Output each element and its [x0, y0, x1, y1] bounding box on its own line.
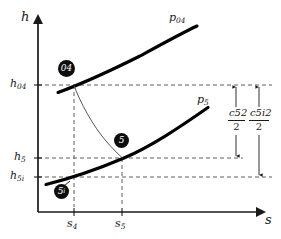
x-tick-label-s5: s5 [115, 218, 125, 230]
annotation-c5i-squared-over-2: c5i2 2 [249, 108, 269, 132]
curve-base-p5: p [197, 93, 204, 106]
state-badge-5-text: 5 [119, 136, 125, 145]
annotation-c5-numerator: c52 [228, 108, 245, 121]
y-tick-label-h04: h04 [10, 78, 27, 90]
y-axis-label: h [21, 10, 29, 23]
state-badge-04: 04 [58, 60, 75, 77]
curve-label-p5: p5 [197, 94, 209, 106]
enthalpy-entropy-diagram: h s h04 h5 h5i s4 s5 p04 p5 04 5 5i c52 … [0, 0, 281, 239]
x-tick-sub-s4: 4 [73, 222, 78, 231]
state-badge-5: 5 [114, 133, 129, 148]
annotation-c5-sup: 2 [241, 107, 247, 118]
axis-ticks [34, 85, 122, 216]
x-axis-label: s [265, 213, 272, 226]
curve-p04 [58, 26, 197, 93]
curve-base-p04: p [169, 11, 176, 24]
x-tick-sub-s5: 5 [121, 222, 126, 231]
state-badge-5i-sub: i [63, 188, 65, 194]
process-curve-04-to-5 [74, 86, 123, 159]
y-tick-label-h5: h5 [14, 151, 26, 163]
curve-sub-p04: 04 [176, 16, 186, 25]
y-tick-sub-h5i: 5i [17, 174, 24, 183]
annotation-c5-squared-over-2: c52 2 [228, 108, 245, 132]
annotation-c5i-sup: 2 [265, 107, 271, 118]
x-tick-label-s4: s4 [67, 218, 77, 230]
y-tick-sub-h04: 04 [17, 82, 27, 91]
state-badge-04-text: 04 [61, 64, 72, 73]
annotation-c5i-numerator: c5i2 [249, 108, 269, 121]
curve-label-p04: p04 [169, 12, 186, 24]
annotation-c5i-denominator: 2 [249, 121, 269, 133]
y-tick-label-h5i: h5i [10, 170, 24, 182]
reference-lines [38, 85, 272, 207]
annotation-c5-denominator: 2 [228, 121, 245, 133]
curve-sub-p5: 5 [204, 98, 209, 107]
annotation-c5i-sub: 5i [256, 107, 266, 118]
curve-p5 [46, 108, 208, 185]
state-badge-5i: 5i [54, 184, 69, 199]
y-tick-sub-h5: 5 [21, 155, 26, 164]
